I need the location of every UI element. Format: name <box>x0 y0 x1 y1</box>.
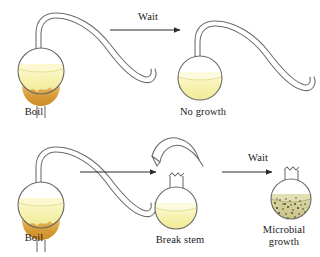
pasteur-experiment-figure: Boil Wait No growth Boil Break stem Wait… <box>0 0 320 257</box>
broth-liquid-2 <box>176 72 224 104</box>
label-no-growth: No growth <box>160 106 246 118</box>
label-wait-bottom: Wait <box>228 152 288 164</box>
bottom-middle-flask <box>153 173 199 233</box>
bottom-end-flask <box>269 167 313 224</box>
broken-neck-edge-1 <box>169 173 184 176</box>
label-boil-top: Boil <box>4 106 64 118</box>
figure-illustration <box>0 0 320 257</box>
top-end-flask <box>176 21 315 104</box>
label-microbial-growth: Microbial growth <box>248 224 320 247</box>
label-break-stem: Break stem <box>140 234 220 246</box>
top-start-flask <box>16 13 156 118</box>
label-boil-bottom: Boil <box>4 232 64 244</box>
label-wait-top: Wait <box>108 11 188 23</box>
detached-stem <box>152 138 203 166</box>
broken-neck-edge-2 <box>284 167 299 170</box>
